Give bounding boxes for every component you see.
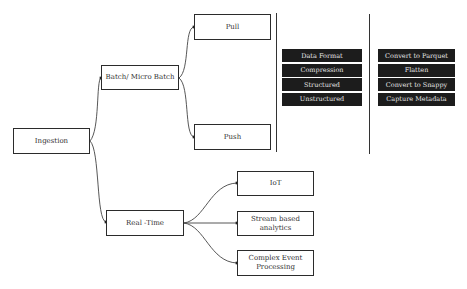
transformation-item: Flatten [378,64,455,77]
transformation-item: Capture Metadata [378,93,455,106]
attributes-list: Data Format Compression Structured Unstr… [282,49,362,106]
attribute-item: Unstructured [282,93,362,106]
divider-line-left [276,13,277,152]
transformations-list: Convert to Parquet Flatten Convert to Sn… [378,49,455,106]
real-time-node: Real -Time [106,210,184,236]
transformation-item: Convert to Snappy [378,78,455,91]
iot-node: IoT [237,171,314,196]
attribute-item: Structured [282,78,362,91]
attribute-item: Data Format [282,49,362,62]
transformation-item: Convert to Parquet [378,49,455,62]
attribute-item: Compression [282,64,362,77]
pull-node: Pull [194,14,271,40]
complex-event-processing-node: Complex Event Processing [237,250,314,276]
push-node: Push [194,124,271,150]
batch-micro-batch-node: Batch/ Micro Batch [101,65,179,90]
divider-line-right [369,14,370,154]
stream-analytics-node: Stream based analytics [237,211,314,236]
ingestion-node: Ingestion [13,128,90,154]
